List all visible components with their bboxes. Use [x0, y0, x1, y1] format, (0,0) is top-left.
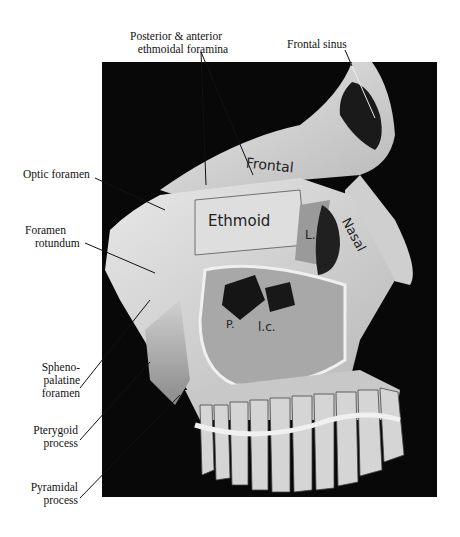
- label-line: process: [18, 494, 78, 507]
- label-line: Pterygoid: [20, 424, 78, 437]
- label-line: foramen: [22, 387, 80, 400]
- label-frontal-sinus: Frontal sinus: [287, 38, 347, 51]
- label-pterygoid-process: Pterygoid process: [20, 424, 78, 450]
- skull-illustration: [0, 0, 460, 537]
- label-foramen-rotundum: Foramen rotundum: [25, 224, 80, 250]
- bone-label-palatine: P.: [226, 318, 234, 331]
- label-line: Foramen: [25, 224, 80, 237]
- label-pyramidal-process: Pyramidal process: [18, 481, 78, 507]
- label-line: Spheno-: [22, 361, 80, 374]
- label-line: Pyramidal: [18, 481, 78, 494]
- anatomy-figure: Posterior & anterior ethmoidal foramina …: [0, 0, 460, 537]
- label-optic-foramen: Optic foramen: [23, 168, 90, 181]
- label-sphenopalatine-foramen: Spheno- palatine foramen: [22, 361, 80, 400]
- label-ethmoidal-foramina: Posterior & anterior ethmoidal foramina: [96, 30, 256, 56]
- label-line: process: [20, 437, 78, 450]
- bone-label-lacrimal-canal: l.c.: [258, 320, 276, 334]
- label-line: Posterior & anterior: [96, 30, 256, 43]
- label-line: palatine: [22, 374, 80, 387]
- bone-label-ethmoid: Ethmoid: [208, 212, 270, 230]
- bone-label-lacrimal: L.: [305, 228, 316, 242]
- label-line: rotundum: [25, 237, 80, 250]
- label-line: ethmoidal foramina: [96, 43, 256, 56]
